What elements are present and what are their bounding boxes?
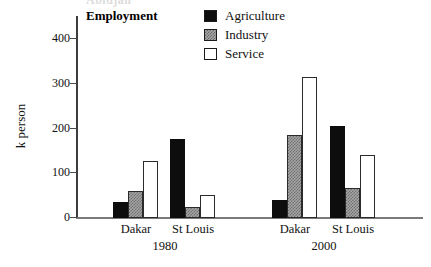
- clipped-page-header: Abidjan: [86, 0, 132, 8]
- employment-bar-chart: Abidjan Employment k person 010020030040…: [0, 0, 431, 267]
- y-axis-tick: [70, 128, 77, 129]
- plot-area: [78, 16, 423, 218]
- y-axis-tick-label-wrap: 100: [28, 166, 70, 178]
- bar-service: [302, 77, 317, 218]
- bar-service: [360, 155, 375, 218]
- bar-service: [200, 195, 215, 218]
- y-axis-tick: [70, 217, 77, 218]
- bar-agriculture: [113, 202, 128, 218]
- y-axis-tick-label: 400: [34, 32, 70, 44]
- y-axis-tick-label-wrap: 0: [28, 211, 70, 223]
- y-axis-tick-label-wrap: 300: [28, 77, 70, 89]
- bar-industry: [128, 191, 143, 218]
- x-axis-city-label: St Louis: [153, 222, 233, 236]
- x-axis-group-label: 1980: [125, 239, 205, 253]
- y-axis-tick-label: 200: [34, 122, 70, 134]
- x-axis-city-label: St Louis: [313, 222, 393, 236]
- bar-industry: [287, 135, 302, 218]
- y-axis-tick-label: 0: [34, 211, 70, 223]
- bar-agriculture: [330, 126, 345, 218]
- x-axis-group-label: 2000: [284, 239, 364, 253]
- bar-agriculture: [272, 200, 287, 218]
- y-axis-tick-label-wrap: 200: [28, 122, 70, 134]
- bar-industry: [345, 188, 360, 218]
- y-axis-tick: [70, 38, 77, 39]
- bar-industry: [185, 207, 200, 218]
- y-axis-tick-label-wrap: 400: [28, 32, 70, 44]
- y-axis-tick: [70, 172, 77, 173]
- y-axis-tick-label: 100: [34, 166, 70, 178]
- bar-agriculture: [170, 139, 185, 218]
- y-axis-tick: [70, 83, 77, 84]
- y-axis-tick-label: 300: [34, 77, 70, 89]
- bar-service: [143, 161, 158, 218]
- y-axis-title: k person: [13, 87, 29, 165]
